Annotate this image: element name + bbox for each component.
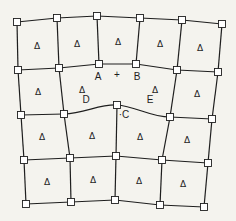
mesh-edge bbox=[218, 24, 222, 72]
mesh-node bbox=[219, 21, 226, 28]
mesh-node bbox=[94, 13, 101, 20]
mesh-edge bbox=[59, 68, 64, 114]
mesh-edge bbox=[24, 158, 70, 160]
triangle-marker-icon: Δ bbox=[184, 135, 191, 145]
mesh-edge bbox=[116, 105, 117, 156]
mesh-node bbox=[114, 102, 121, 109]
mesh-edge bbox=[116, 156, 162, 160]
triangle-marker-icon: Δ bbox=[157, 39, 164, 49]
mesh-node bbox=[112, 197, 119, 204]
mesh-node bbox=[174, 67, 181, 74]
mesh-edge bbox=[170, 70, 177, 117]
mesh-node bbox=[215, 69, 222, 76]
mesh-node bbox=[15, 67, 22, 74]
mesh-edge bbox=[70, 156, 116, 158]
mesh-edge bbox=[136, 64, 177, 70]
mesh-node bbox=[23, 201, 30, 208]
mesh-edge bbox=[160, 205, 204, 207]
mesh-edge bbox=[140, 18, 182, 20]
label-B: B bbox=[134, 71, 141, 82]
mesh-edge bbox=[162, 160, 208, 163]
triangle-marker-icon: Δ bbox=[34, 41, 41, 51]
triangle-marker-icon: Δ bbox=[136, 176, 143, 186]
triangle-marker-icon: Δ bbox=[194, 89, 201, 99]
mesh-edge bbox=[212, 72, 218, 119]
mesh-edge bbox=[57, 16, 97, 18]
mesh-edge bbox=[115, 200, 160, 205]
mesh-edge bbox=[97, 16, 140, 18]
label-C: ·C bbox=[119, 109, 130, 120]
mesh-node bbox=[201, 204, 208, 211]
mesh-edge bbox=[26, 202, 71, 204]
mesh-edge bbox=[17, 18, 57, 22]
triangle-marker-icon: Δ bbox=[90, 175, 97, 185]
mesh-edge bbox=[162, 117, 170, 160]
triangle-marker-icon: Δ bbox=[197, 43, 204, 53]
mesh-node bbox=[179, 17, 186, 24]
mesh-edge bbox=[57, 18, 59, 68]
mesh-node bbox=[21, 157, 28, 164]
mesh-node bbox=[18, 112, 25, 119]
label-D: D bbox=[82, 94, 89, 105]
triangle-marker-icon: Δ bbox=[115, 37, 122, 47]
mesh-diagram: ΔΔΔΔΔΔΔΔΔΔΔΔΔΔΔΔΔ A+BDE·C bbox=[0, 0, 236, 221]
triangle-marker-icon: Δ bbox=[180, 179, 187, 189]
triangle-marker-icon: Δ bbox=[44, 177, 51, 187]
triangle-marker-icon: Δ bbox=[137, 132, 144, 142]
mesh-node bbox=[14, 19, 21, 26]
mesh-edge bbox=[182, 20, 222, 24]
label-plus: + bbox=[114, 69, 120, 80]
mesh-edge bbox=[177, 70, 218, 72]
mesh-node bbox=[159, 157, 166, 164]
mesh-edge bbox=[115, 156, 116, 200]
mesh-edge bbox=[64, 114, 70, 158]
mesh-edge bbox=[59, 64, 99, 68]
mesh-node bbox=[96, 61, 103, 68]
mesh-edge bbox=[160, 160, 162, 205]
mesh-node bbox=[54, 15, 61, 22]
mesh-edge bbox=[71, 200, 115, 202]
mesh-node bbox=[68, 199, 75, 206]
mesh-node bbox=[167, 114, 174, 121]
point-labels: A+BDE·C bbox=[82, 69, 153, 120]
mesh-edge bbox=[21, 115, 24, 160]
mesh-edge bbox=[97, 16, 99, 64]
mesh-edge bbox=[17, 22, 18, 70]
triangle-marker-icon: Δ bbox=[39, 132, 46, 142]
mesh-edge bbox=[18, 68, 59, 70]
mesh-edge bbox=[70, 158, 71, 202]
triangle-marker-icon: Δ bbox=[74, 39, 81, 49]
mesh-edge bbox=[24, 160, 26, 204]
mesh-node bbox=[133, 61, 140, 68]
mesh-node bbox=[61, 111, 68, 118]
mesh-edge bbox=[136, 18, 140, 64]
triangle-marker-icon: Δ bbox=[35, 87, 42, 97]
label-E: E bbox=[147, 94, 154, 105]
mesh-edge bbox=[170, 117, 212, 119]
mesh-node bbox=[205, 160, 212, 167]
mesh-node bbox=[209, 116, 216, 123]
mesh-node bbox=[56, 65, 63, 72]
mesh-edge bbox=[208, 119, 212, 163]
triangle-marker-icon: Δ bbox=[89, 131, 96, 141]
mesh-node bbox=[67, 155, 74, 162]
label-A: A bbox=[95, 71, 102, 82]
mesh-edge bbox=[204, 163, 208, 207]
mesh-node bbox=[157, 202, 164, 209]
mesh-node bbox=[113, 153, 120, 160]
mesh-node bbox=[137, 15, 144, 22]
mesh-edge bbox=[21, 114, 64, 115]
mesh-edge bbox=[18, 70, 21, 115]
mesh-edge bbox=[177, 20, 182, 70]
